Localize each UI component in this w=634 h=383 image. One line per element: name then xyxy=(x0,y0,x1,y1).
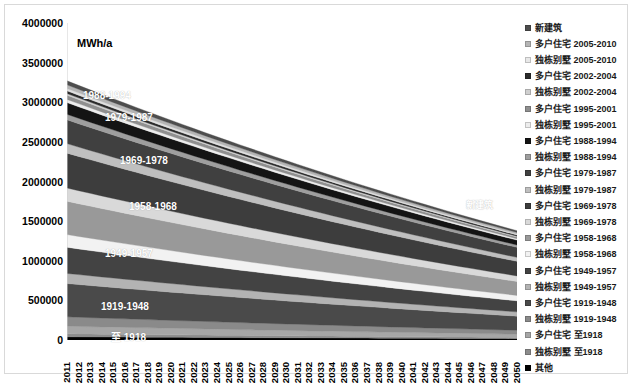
legend-item-label: 多户住宅 1995-2001 xyxy=(535,104,617,114)
legend-item-label: 多户住宅 1969-1978 xyxy=(535,201,617,211)
y-axis-tick-label: 4000000 xyxy=(22,18,63,28)
legend-item-label: 多户住宅 1958-1968 xyxy=(535,233,617,243)
legend-swatch-icon xyxy=(525,73,531,79)
legend-item-label: 其他 xyxy=(535,363,553,373)
legend-swatch-icon xyxy=(525,41,531,47)
legend-swatch-icon xyxy=(525,25,531,31)
band-annotation: 新建筑 xyxy=(466,198,493,211)
x-axis-tick-label: 2050 xyxy=(512,362,523,383)
legend-swatch-icon xyxy=(525,57,531,63)
legend-swatch-icon xyxy=(525,332,531,338)
x-axis-tick-label: 2047 xyxy=(477,362,488,383)
legend-swatch-icon xyxy=(525,300,531,306)
legend-item[interactable]: 独栋别墅 1969-1978 xyxy=(525,213,617,230)
x-axis-tick-label: 2017 xyxy=(131,362,142,383)
band-annotation: 1919-1948 xyxy=(101,301,149,312)
x-axis-tick-label: 2032 xyxy=(304,362,315,383)
x-axis-tick-label: 2013 xyxy=(85,362,96,383)
legend-item-label: 独栋别墅 1969-1978 xyxy=(535,217,617,227)
stacked-area-svg xyxy=(67,23,517,340)
legend-item[interactable]: 多户住宅 1949-1957 xyxy=(525,262,617,279)
legend-swatch-icon xyxy=(525,138,531,144)
x-axis-tick-label: 2025 xyxy=(224,362,235,383)
legend-item[interactable]: 多户住宅 2002-2004 xyxy=(525,68,617,85)
legend-swatch-icon xyxy=(525,106,531,112)
band-annotation: 1958-1968 xyxy=(129,201,177,212)
legend-item-label: 多户住宅 至1918 xyxy=(535,330,603,340)
legend-item-label: 独栋别墅 1979-1987 xyxy=(535,185,617,195)
legend-swatch-icon xyxy=(525,316,531,322)
x-axis-tick-label: 2019 xyxy=(154,362,165,383)
legend-item[interactable]: 独栋别墅 2005-2010 xyxy=(525,51,617,68)
chart-legend: 新建筑多户住宅 2005-2010独栋别墅 2005-2010多户住宅 2002… xyxy=(525,19,634,375)
legend-item-label: 新建筑 xyxy=(535,23,562,33)
legend-item[interactable]: 多户住宅 2005-2010 xyxy=(525,35,617,52)
x-axis-tick-label: 2034 xyxy=(327,362,338,383)
legend-item-label: 独栋别墅 2002-2004 xyxy=(535,87,617,97)
legend-item-label: 多户住宅 1979-1987 xyxy=(535,168,617,178)
legend-item[interactable]: 多户住宅 1958-1968 xyxy=(525,230,617,247)
x-axis-tick-label: 2023 xyxy=(200,362,211,383)
legend-item-label: 独栋别墅 至1918 xyxy=(535,347,603,357)
band-annotation: 至 1918 xyxy=(111,329,146,344)
legend-item-label: 独栋别墅 1995-2001 xyxy=(535,120,617,130)
y-axis-tick-label: 3000000 xyxy=(22,97,63,107)
legend-item-label: 独栋别墅 1958-1968 xyxy=(535,249,617,259)
x-axis-tick-label: 2036 xyxy=(350,362,361,383)
legend-item[interactable]: 独栋别墅 1919-1948 xyxy=(525,311,617,328)
x-axis-tick-label: 2040 xyxy=(397,362,408,383)
legend-swatch-icon xyxy=(525,219,531,225)
legend-swatch-icon xyxy=(525,251,531,257)
x-axis-tick-label: 2021 xyxy=(177,362,188,383)
y-axis-tick-label: 1500000 xyxy=(22,216,63,226)
legend-swatch-icon xyxy=(525,170,531,176)
x-axis-tick-label: 2024 xyxy=(212,362,223,383)
legend-item-label: 多户住宅 2002-2004 xyxy=(535,71,617,81)
legend-item[interactable]: 独栋别墅 1988-1994 xyxy=(525,149,617,166)
legend-item[interactable]: 独栋别墅 1995-2001 xyxy=(525,116,617,133)
legend-item[interactable]: 多户住宅 1995-2001 xyxy=(525,100,617,117)
x-axis-tick-label: 2012 xyxy=(74,362,85,383)
legend-item[interactable]: 多户住宅 1988-1994 xyxy=(525,132,617,149)
x-axis-tick-label: 2027 xyxy=(247,362,258,383)
y-axis-tick-label: 3500000 xyxy=(22,58,63,68)
x-axis-tick-label: 2037 xyxy=(362,362,373,383)
x-axis-tick-label: 2026 xyxy=(235,362,246,383)
legend-swatch-icon xyxy=(525,203,531,209)
y-axis-tick-label: 0 xyxy=(57,335,63,345)
x-axis-tick-label: 2049 xyxy=(500,362,511,383)
legend-item[interactable]: 独栋别墅 1949-1957 xyxy=(525,278,617,295)
x-axis-tick-label: 2038 xyxy=(374,362,385,383)
legend-item[interactable]: 独栋别墅 1958-1968 xyxy=(525,246,617,263)
band-annotation: 1969-1978 xyxy=(120,155,168,166)
band-annotation: 1988-1994 xyxy=(83,90,131,101)
legend-item-label: 多户住宅 1949-1957 xyxy=(535,266,617,276)
x-axis-tick-label: 2045 xyxy=(454,362,465,383)
legend-item-label: 独栋别墅 1919-1948 xyxy=(535,314,617,324)
legend-swatch-icon xyxy=(525,89,531,95)
legend-item[interactable]: 其他 xyxy=(525,359,553,376)
legend-item-label: 多户住宅 1919-1948 xyxy=(535,298,617,308)
x-axis-tick-label: 2041 xyxy=(408,362,419,383)
legend-item[interactable]: 多户住宅 至1918 xyxy=(525,327,603,344)
legend-item[interactable]: 独栋别墅 2002-2004 xyxy=(525,84,617,101)
x-axis-tick-label: 2043 xyxy=(431,362,442,383)
legend-swatch-icon xyxy=(525,365,531,371)
y-axis-tick-label: 2000000 xyxy=(22,177,63,187)
legend-swatch-icon xyxy=(525,235,531,241)
legend-item[interactable]: 多户住宅 1919-1948 xyxy=(525,294,617,311)
legend-item[interactable]: 多户住宅 1969-1978 xyxy=(525,197,617,214)
legend-item[interactable]: 独栋别墅 至1918 xyxy=(525,343,603,360)
x-axis-tick-label: 2028 xyxy=(258,362,269,383)
legend-swatch-icon xyxy=(525,187,531,193)
legend-item[interactable]: 新建筑 xyxy=(525,19,562,36)
legend-swatch-icon xyxy=(525,349,531,355)
legend-item-label: 独栋别墅 1988-1994 xyxy=(535,152,617,162)
legend-item[interactable]: 独栋别墅 1979-1987 xyxy=(525,181,617,198)
legend-item[interactable]: 多户住宅 1979-1987 xyxy=(525,165,617,182)
band-annotation: 1979-1987 xyxy=(105,112,153,123)
legend-item-label: 独栋别墅 2005-2010 xyxy=(535,55,617,65)
y-axis-tick-label: 1000000 xyxy=(22,256,63,266)
legend-swatch-icon xyxy=(525,268,531,274)
x-axis-tick-label: 2014 xyxy=(97,362,108,383)
